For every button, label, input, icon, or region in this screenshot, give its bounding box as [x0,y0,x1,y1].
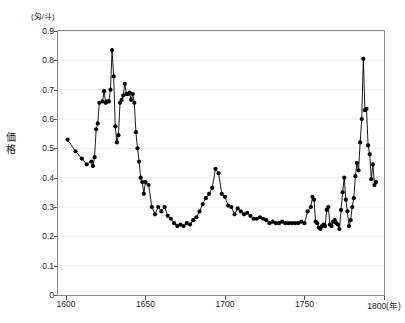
x-axis-tick-label: 1750 [295,299,314,309]
data-point [150,205,154,209]
data-point [113,124,117,128]
data-point [108,88,112,92]
data-point [169,217,173,221]
data-point [264,218,268,222]
y-axis-title-char-1: 価 [5,132,17,144]
data-point [120,98,124,102]
data-point [191,218,195,222]
data-point [353,174,357,178]
data-point [156,205,160,209]
gridlines [58,31,384,266]
data-point [245,211,249,215]
x-axis-tick-mark [304,296,305,300]
data-markers [65,48,378,231]
x-axis-tick-labels: 16001650170017501800(年) [0,299,405,319]
data-point [356,168,360,172]
data-point [123,82,127,86]
data-point [347,224,351,228]
data-point [89,159,93,163]
data-point [73,149,77,153]
data-point [306,209,310,213]
data-point [350,205,354,209]
data-point [91,164,95,168]
data-point [115,140,119,144]
x-axis-tick-mark [384,296,385,300]
x-axis-tick-mark [225,296,226,300]
data-point [312,198,316,202]
data-point [166,214,170,218]
data-point [172,221,176,225]
data-point [197,209,201,213]
chart-canvas [58,31,384,295]
data-point [236,206,240,210]
x-axis-tick-label: 1650 [136,299,155,309]
data-point [323,224,327,228]
data-point [112,74,116,78]
data-point [341,190,345,194]
data-point [329,224,333,228]
y-axis-tick-label: 0.2 [28,231,54,241]
data-point [315,221,319,225]
data-point [204,196,208,200]
data-point [336,223,340,227]
data-point [342,176,346,180]
data-point [210,186,214,190]
data-point [135,146,139,150]
data-point [96,121,100,125]
y-axis-tick-label: 0.5 [28,143,54,153]
x-axis-tick-mark [66,296,67,300]
data-point [94,127,98,131]
data-point [369,177,373,181]
data-point [337,227,341,231]
y-axis-tick-label: 0.3 [28,202,54,212]
data-point [309,205,313,209]
data-point [349,218,353,222]
data-point [207,192,211,196]
data-point [107,99,111,103]
chart-figure: (匁/斗) 価 格 00.10.20.30.40.50.60.70.80.9 1… [0,0,405,323]
data-point [80,157,84,161]
data-point [344,198,348,202]
y-axis-tick-label: 0.8 [28,55,54,65]
data-point [345,209,349,213]
y-axis-tick-label: 0.1 [28,261,54,271]
data-point [182,224,186,228]
data-point [153,212,157,216]
x-axis-tick-mark [145,296,146,300]
data-point [116,133,120,137]
data-point [371,162,375,166]
y-axis-tick-label: 0.6 [28,114,54,124]
x-axis-tick-label: 1700 [216,299,235,309]
data-point [92,155,96,159]
data-point [339,208,343,212]
data-point [85,162,89,166]
y-axis-tick-label: 0.7 [28,85,54,95]
data-point [326,205,330,209]
x-axis-tick-label: 1600 [56,299,75,309]
y-axis-tick-labels: 00.10.20.30.40.50.60.70.80.9 [26,0,54,323]
data-point [131,92,135,96]
data-point [232,212,236,216]
data-point [137,159,141,163]
data-point [223,195,227,199]
data-point [143,180,147,184]
data-point [132,101,136,105]
data-point [366,143,370,147]
data-point [110,48,114,52]
data-point [239,209,243,213]
data-point [102,89,106,93]
data-point [368,152,372,156]
data-point [229,205,233,209]
y-axis-title-char-2: 格 [5,144,17,156]
data-point [355,161,359,165]
data-point [364,107,368,111]
data-point [129,98,133,102]
data-point [147,183,151,187]
data-point [65,137,69,141]
data-point [361,57,365,61]
data-point [220,192,224,196]
data-point [188,223,192,227]
x-axis-tick-label: 1800(年) [367,299,401,311]
data-point [352,196,356,200]
data-point [248,214,252,218]
